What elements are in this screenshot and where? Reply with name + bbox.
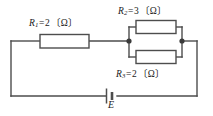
label-r1-value: 2	[45, 18, 50, 28]
circuit-diagram: R1=2〔Ω〕 R2=3〔Ω〕 R3=2〔Ω〕 E	[0, 0, 213, 116]
label-r1-unit: 〔Ω〕	[51, 18, 78, 28]
junction-node-left	[126, 38, 131, 43]
label-r3-unit: 〔Ω〕	[138, 69, 165, 79]
label-r2-value: 3	[134, 6, 139, 16]
label-r2-unit: 〔Ω〕	[140, 6, 167, 16]
resistor-r1-body	[40, 35, 89, 49]
label-r3-subscript: 3	[122, 72, 126, 79]
junction-node-right	[179, 38, 184, 43]
label-r2-equals: =	[128, 6, 133, 16]
label-r3-value: 2	[132, 69, 137, 79]
label-source-symbol: E	[108, 99, 114, 110]
resistor-r3-body	[136, 51, 176, 64]
label-r1-subscript: 1	[35, 21, 39, 28]
label-r2-subscript: 2	[124, 9, 128, 16]
resistor-r2-body	[136, 21, 176, 34]
label-r1: R1=2〔Ω〕	[29, 15, 78, 29]
label-r1-equals: =	[39, 18, 44, 28]
label-source: E	[108, 99, 114, 110]
label-r2: R2=3〔Ω〕	[118, 3, 167, 17]
label-r3: R3=2〔Ω〕	[116, 66, 165, 80]
label-r3-equals: =	[126, 69, 131, 79]
